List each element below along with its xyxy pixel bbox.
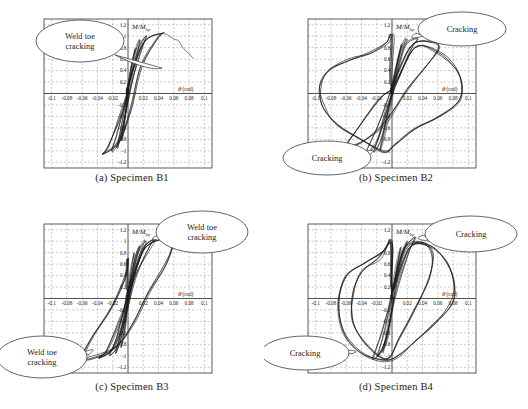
plot-svg-b3: -0.1-0.08-0.06-0.04-0.020.020.040.060.08… [0,205,264,385]
x-tick-label: 0.04 [154,300,163,306]
x-tick-label: 0.06 [433,300,442,306]
x-tick-label: 0.08 [185,300,194,306]
panel-specimen-b1: -0.1-0.08-0.06-0.04-0.020.020.040.060.08… [0,0,264,204]
panel-specimen-b3: -0.1-0.08-0.06-0.04-0.020.020.040.060.08… [0,205,264,409]
callout-ellipse [36,20,124,62]
x-tick-label: 0.08 [449,95,458,101]
x-tick-label: 0.1 [201,95,208,101]
plot-area-b2: -0.1-0.08-0.06-0.04-0.020.020.040.060.08… [264,0,528,180]
y-tick-label: 0.8 [120,250,127,256]
plot-area-b3: -0.1-0.08-0.06-0.04-0.020.020.040.060.08… [0,205,264,385]
callout-text: Weld toe [27,348,57,357]
y-axis-label: M/Mbp [395,23,415,32]
callout-text: cracking [28,358,58,367]
x-tick-label: -0.08 [326,95,337,101]
x-tick-label: -0.08 [326,300,337,306]
y-tick-label: 1 [124,33,127,39]
x-tick-label: -0.02 [107,95,118,101]
plot-svg-b1: -0.1-0.08-0.06-0.04-0.020.020.040.060.08… [0,0,264,180]
y-axis-label: M/Mbp [131,23,151,32]
x-tick-label: 0.04 [154,95,163,101]
x-tick-label: -0.06 [341,300,352,306]
x-tick-label: 0.06 [169,300,178,306]
hysteresis-figure: -0.1-0.08-0.06-0.04-0.020.020.040.060.08… [0,0,528,409]
y-tick-label: 1.2 [120,22,127,28]
x-tick-label: -0.04 [356,95,367,101]
callout-text: Weld toe [65,32,95,41]
y-tick-label: 0.4 [120,67,127,73]
x-tick-label: -0.02 [371,300,382,306]
x-tick-label: 0.04 [418,95,427,101]
callout-weld-toe-cracking-upper-right: Weld toecracking [152,211,248,253]
y-tick-label: -1.2 [118,364,127,370]
callout-ellipse [0,336,87,378]
panel-caption-b1: (a) Specimen B1 [0,172,264,183]
y-tick-label: 0.6 [384,261,391,267]
x-tick-label: -0.04 [92,95,103,101]
x-tick-label: -0.1 [48,95,57,101]
x-tick-label: 0.02 [403,95,412,101]
callout-text: cracking [188,233,218,242]
x-axis-label: θ(rad) [442,85,457,93]
x-tick-label: -0.1 [312,300,321,306]
x-tick-label: -0.1 [312,95,321,101]
x-tick-label: 0.1 [465,95,472,101]
x-tick-label: -0.06 [77,95,88,101]
plot-svg-b4: -0.1-0.08-0.06-0.04-0.020.020.040.060.08… [264,205,528,385]
x-axis-label: θ(rad) [178,85,193,93]
hysteresis-loop [162,33,193,58]
x-tick-label: -0.06 [77,300,88,306]
y-tick-label: -1 [122,148,127,154]
y-tick-label: -1.2 [382,159,391,165]
y-tick-label: -1 [122,353,127,359]
callout-cracking-lower-left: Cracking [264,336,356,370]
callout-text: Cracking [290,349,322,358]
y-axis-label: M/Mbp [395,228,415,237]
callout-text: Cracking [447,25,479,34]
y-tick-label: 1.2 [120,227,127,233]
plot-area-b1: -0.1-0.08-0.06-0.04-0.020.020.040.060.08… [0,0,264,180]
callout-text: Weld toe [187,223,217,232]
x-tick-label: -0.08 [62,300,73,306]
y-tick-label: 0.2 [384,284,391,290]
y-tick-label: 1.2 [384,227,391,233]
panel-specimen-b4: -0.1-0.08-0.06-0.04-0.020.020.040.060.08… [264,205,528,409]
x-tick-label: -0.04 [92,300,103,306]
y-tick-label: 1.2 [384,22,391,28]
y-tick-label: 1 [124,238,127,244]
y-tick-label: -1.2 [382,364,391,370]
x-axis-label: θ(rad) [178,290,193,298]
panel-caption-b3: (c) Specimen B3 [0,381,264,392]
y-tick-label: -1.2 [118,159,127,165]
y-tick-label: 0.6 [120,261,127,267]
y-tick-label: 0.2 [120,79,127,85]
plot-svg-b2: -0.1-0.08-0.06-0.04-0.020.020.040.060.08… [264,0,528,180]
x-tick-label: -0.1 [48,300,57,306]
x-tick-label: 0.02 [403,300,412,306]
callout-cracking-lower-left: Cracking [283,141,373,175]
panel-specimen-b2: -0.1-0.08-0.06-0.04-0.020.020.040.060.08… [264,0,528,204]
callout-text: Cracking [312,154,344,163]
x-tick-label: -0.04 [356,300,367,306]
y-axis-label: M/Mbp [131,228,151,237]
x-tick-label: 0.02 [139,95,148,101]
x-tick-label: 0.06 [433,95,442,101]
panel-caption-b2: (b) Specimen B2 [264,172,528,183]
y-tick-label: 0.4 [384,272,391,278]
plot-area-b4: -0.1-0.08-0.06-0.04-0.020.020.040.060.08… [264,205,528,385]
x-tick-label: -0.06 [341,95,352,101]
callout-text: cracking [66,42,96,51]
callout-ellipse [156,211,248,253]
x-tick-label: 0.1 [465,300,472,306]
callout-text: Cracking [456,230,488,239]
x-tick-label: 0.1 [201,300,208,306]
x-tick-label: 0.06 [169,95,178,101]
panel-caption-b4: (d) Specimen B4 [264,381,528,392]
x-tick-label: -0.08 [62,95,73,101]
callout-weld-toe-cracking-lower-left: Weld toecracking [0,336,93,378]
x-tick-label: 0.08 [185,95,194,101]
